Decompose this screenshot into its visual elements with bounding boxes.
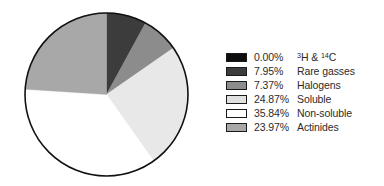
legend-percent: 35.84%	[254, 107, 297, 119]
legend-percent: 7.95%	[254, 65, 297, 77]
legend-label: Halogens	[297, 79, 341, 91]
legend-percent: 0.00%	[254, 51, 297, 63]
pie-chart-figure: 0.00%3H & 14C7.95%Rare gasses7.37%Haloge…	[0, 0, 384, 186]
legend-swatch	[226, 53, 247, 62]
legend-row[interactable]: 35.84%Non-soluble	[226, 106, 382, 120]
legend-swatch	[226, 95, 247, 104]
legend-label: Non-soluble	[297, 107, 352, 119]
legend-label: 3H & 14C	[297, 51, 336, 63]
legend-row[interactable]: 0.00%3H & 14C	[226, 50, 382, 64]
pie-chart-svg	[23, 11, 190, 178]
pie-slice-group	[25, 13, 188, 176]
legend-row[interactable]: 7.95%Rare gasses	[226, 64, 382, 78]
legend-percent: 23.97%	[254, 121, 297, 133]
legend-row[interactable]: 7.37%Halogens	[226, 78, 382, 92]
legend-swatch	[226, 67, 247, 76]
legend-swatch	[226, 81, 247, 90]
legend-label: Rare gasses	[297, 65, 355, 77]
legend-swatch	[226, 109, 247, 118]
legend-swatch	[226, 123, 247, 132]
pie-chart-area	[23, 11, 190, 178]
legend-label: Soluble	[297, 93, 331, 105]
legend-percent: 24.87%	[254, 93, 297, 105]
legend-percent: 7.37%	[254, 79, 297, 91]
legend-label: Actinides	[297, 121, 339, 133]
legend-row[interactable]: 23.97%Actinides	[226, 120, 382, 134]
pie-slice[interactable]	[25, 13, 106, 95]
chart-legend: 0.00%3H & 14C7.95%Rare gasses7.37%Haloge…	[226, 50, 382, 134]
legend-row[interactable]: 24.87%Soluble	[226, 92, 382, 106]
